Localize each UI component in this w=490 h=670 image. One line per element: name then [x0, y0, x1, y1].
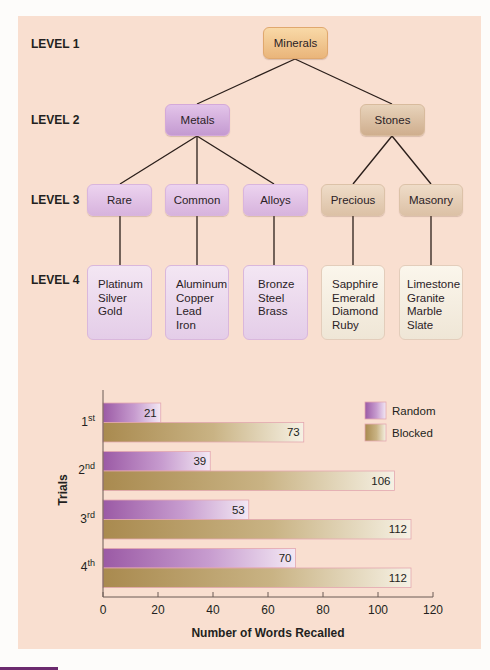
x-tick-label-120: 120: [423, 603, 443, 617]
data-label-blocked-3rd: 112: [389, 523, 407, 535]
legend-swatch-random: [365, 402, 386, 419]
legend-label-blocked: Blocked: [392, 427, 433, 439]
data-label-blocked-1st: 73: [287, 426, 300, 438]
data-label-random-1st: 21: [144, 407, 157, 419]
x-tick-label-60: 60: [261, 603, 275, 617]
category-label-2nd: 2nd: [78, 461, 95, 477]
x-tick-label-20: 20: [151, 603, 165, 617]
category-label-3rd: 3rd: [80, 510, 95, 526]
x-tick-label-0: 0: [100, 603, 107, 617]
category-label-4th: 4th: [81, 558, 95, 574]
bar-blocked-4th: [103, 568, 411, 588]
data-label-blocked-2nd: 106: [371, 475, 390, 487]
bar-chart: 2173391065311270112 020406080100120 1st2…: [0, 0, 490, 670]
category-label-1st: 1st: [81, 413, 95, 429]
bar-blocked-2nd: [103, 471, 395, 491]
data-label-random-3rd: 53: [232, 504, 245, 516]
legend-label-random: Random: [392, 405, 435, 417]
x-tick-label-100: 100: [368, 603, 388, 617]
legend-swatch-blocked: [365, 424, 386, 441]
bar-blocked-3rd: [103, 520, 411, 540]
bar-random-4th: [103, 549, 296, 569]
bar-random-3rd: [103, 500, 249, 520]
x-tick-label-80: 80: [316, 603, 330, 617]
data-label-random-2nd: 39: [193, 455, 206, 467]
data-label-blocked-4th: 112: [389, 572, 407, 584]
x-tick-label-40: 40: [206, 603, 220, 617]
x-axis-title: Number of Words Recalled: [191, 626, 344, 640]
data-label-random-4th: 70: [279, 552, 292, 564]
bar-blocked-1st: [103, 423, 304, 443]
y-axis-title: Trials: [56, 474, 70, 506]
legend: Random Blocked: [365, 402, 435, 441]
